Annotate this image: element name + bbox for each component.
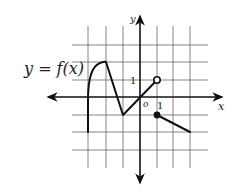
x-axis-label: x <box>218 100 225 113</box>
closed-point <box>154 112 161 119</box>
x-tick-1: 1 <box>157 100 163 111</box>
y-tick-1: 1 <box>130 75 136 86</box>
open-point <box>154 77 160 83</box>
y-axis-label: y <box>129 13 136 24</box>
origin-label: o <box>143 99 149 109</box>
function-label: y = f(x) <box>23 59 84 78</box>
function-graph: y = f(x) y x o 1 1 <box>0 0 239 194</box>
